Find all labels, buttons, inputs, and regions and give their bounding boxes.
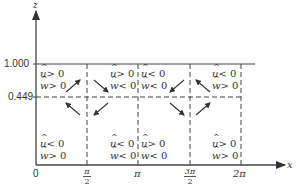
arrow-icon: [170, 103, 184, 115]
z-tick-0449: 0.449: [8, 92, 33, 102]
x-tick-pi: π: [134, 168, 141, 179]
arrow-icon: [66, 103, 80, 115]
region-top-mid-right: u< 0 w< 0: [141, 68, 167, 92]
arrow-icon: [196, 103, 210, 115]
z-tick-1000: 1.000: [4, 59, 29, 69]
diagram-canvas: [0, 0, 296, 194]
x-tick-3pi-half: 3π 2: [182, 167, 198, 186]
region-bottom-mid-left: u< 0 w< 0: [110, 138, 136, 162]
x-tick-2pi: 2π: [233, 168, 246, 179]
x-axis-label: x: [287, 160, 293, 170]
region-top-left: u> 0 w> 0: [40, 68, 66, 92]
region-bottom-left: u< 0 w> 0: [40, 138, 66, 162]
region-bottom-right: u> 0 w> 0: [212, 138, 238, 162]
x-tick-0: 0: [33, 168, 39, 179]
z-axis-label: z: [33, 0, 38, 10]
arrow-icon: [94, 80, 108, 92]
region-bottom-mid-right: u> 0 w< 0: [141, 138, 167, 162]
arrow-icon: [196, 80, 210, 92]
region-top-right: u< 0 w> 0: [212, 68, 238, 92]
region-top-mid-left: u> 0 w< 0: [110, 68, 136, 92]
arrow-icon: [94, 103, 108, 115]
x-tick-pi-half: π 2: [81, 167, 93, 186]
arrow-icon: [66, 80, 80, 92]
arrow-icon: [170, 80, 184, 92]
